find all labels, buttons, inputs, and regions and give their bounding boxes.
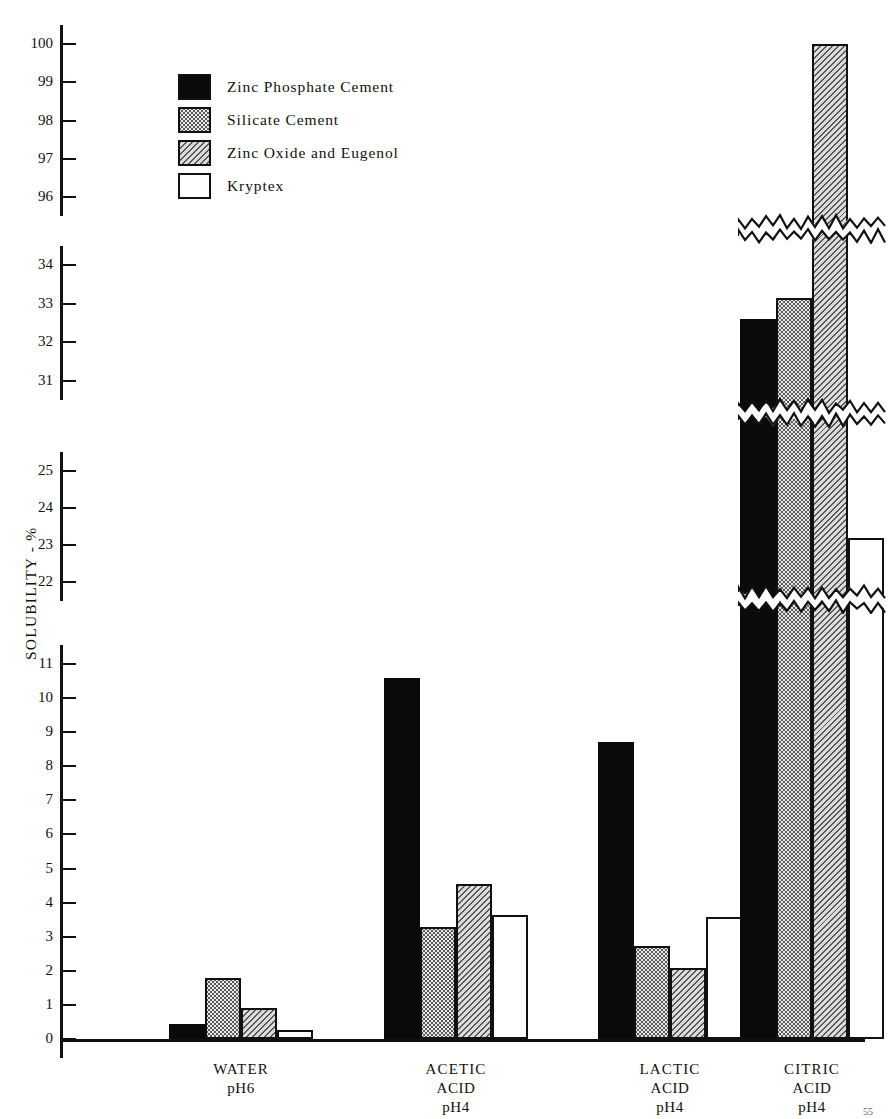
bar-hatch-group3 — [812, 44, 848, 1039]
y-tick — [63, 970, 76, 972]
bar-dots-group3 — [776, 298, 812, 1039]
y-tick-label: 5 — [13, 861, 53, 876]
y-tick-label: 9 — [13, 724, 53, 739]
y-tick-label: 23 — [13, 537, 53, 552]
swatch-silicate-icon — [178, 107, 211, 133]
bar-hatch-group1 — [456, 884, 492, 1039]
bar-open-group0 — [277, 1030, 313, 1039]
y-tick — [63, 544, 76, 546]
legend-item-label: Zinc Phosphate Cement — [227, 78, 394, 96]
bar-solid-group1 — [384, 678, 420, 1039]
bar-open-group3 — [848, 538, 884, 1039]
y-tick-label: 97 — [13, 151, 53, 166]
legend-item: Zinc Phosphate Cement — [178, 70, 399, 103]
x-axis-group-label-citric: CITRICACIDpH4 — [700, 1060, 890, 1117]
y-tick-label: 6 — [13, 826, 53, 841]
bar-solid-group2 — [598, 742, 634, 1039]
y-tick — [63, 1004, 76, 1006]
y-tick-label: 34 — [13, 257, 53, 272]
y-axis-segment-22-25 — [60, 452, 63, 601]
y-tick — [63, 43, 76, 45]
y-tick — [63, 341, 76, 343]
bar-solid-group0 — [169, 1024, 205, 1039]
y-tick-label: 3 — [13, 929, 53, 944]
y-tick-label: 25 — [13, 463, 53, 478]
y-tick — [63, 731, 76, 733]
y-tick-label: 0 — [13, 1031, 53, 1046]
y-tick — [63, 581, 76, 583]
y-axis-segment-31-34 — [60, 246, 63, 400]
bar-solid-group3 — [740, 319, 776, 1039]
y-tick — [63, 380, 76, 382]
x-label-line2: pH6 — [129, 1079, 353, 1098]
legend-item: Kryptex — [178, 169, 399, 202]
y-tick-label: 11 — [13, 656, 53, 671]
x-axis-group-label-acetic: ACETICACIDpH4 — [344, 1060, 568, 1117]
y-tick-label: 8 — [13, 758, 53, 773]
y-tick-label: 31 — [13, 373, 53, 388]
y-tick — [63, 196, 76, 198]
y-tick-label: 7 — [13, 792, 53, 807]
swatch-zinc-phosphate-icon — [178, 74, 211, 100]
legend: Zinc Phosphate CementSilicate CementZinc… — [178, 70, 399, 202]
bar-dots-group1 — [420, 927, 456, 1040]
x-label-line3: pH4 — [700, 1098, 890, 1117]
legend-item: Silicate Cement — [178, 103, 399, 136]
bar-open-group1 — [492, 915, 528, 1039]
y-tick-label: 33 — [13, 296, 53, 311]
x-axis-baseline — [60, 1039, 865, 1042]
corner-note: 55 — [863, 1106, 873, 1117]
legend-item-label: Silicate Cement — [227, 111, 339, 129]
y-tick — [63, 765, 76, 767]
y-tick — [63, 936, 76, 938]
legend-item-label: Zinc Oxide and Eugenol — [227, 144, 399, 162]
bar-open-group2 — [706, 917, 742, 1039]
y-tick — [63, 507, 76, 509]
x-label-line2: ACID — [344, 1079, 568, 1098]
y-tick — [63, 264, 76, 266]
y-axis-segment-0-11 — [60, 645, 63, 1058]
bar-dots-group0 — [205, 978, 241, 1039]
y-tick — [63, 902, 76, 904]
x-label-line1: CITRIC — [700, 1060, 890, 1079]
y-tick — [63, 799, 76, 801]
y-tick-label: 98 — [13, 113, 53, 128]
y-tick-label: 4 — [13, 895, 53, 910]
x-axis-group-label-water: WATERpH6 — [129, 1060, 353, 1098]
y-tick — [63, 697, 76, 699]
y-tick-label: 1 — [13, 997, 53, 1012]
y-tick — [63, 158, 76, 160]
y-tick-label: 100 — [13, 36, 53, 51]
y-tick-label: 99 — [13, 74, 53, 89]
y-tick — [63, 120, 76, 122]
y-tick-label: 32 — [13, 334, 53, 349]
legend-item: Zinc Oxide and Eugenol — [178, 136, 399, 169]
y-tick — [63, 868, 76, 870]
bar-hatch-group2 — [670, 968, 706, 1039]
y-tick-label: 24 — [13, 500, 53, 515]
y-tick-label: 10 — [13, 690, 53, 705]
x-label-line1: ACETIC — [344, 1060, 568, 1079]
y-tick — [63, 81, 76, 83]
x-label-line2: ACID — [700, 1079, 890, 1098]
y-tick — [63, 470, 76, 472]
y-tick-label: 96 — [13, 189, 53, 204]
bar-hatch-group0 — [241, 1008, 277, 1039]
x-label-line1: WATER — [129, 1060, 353, 1079]
swatch-zinc-oxide-eugenol-icon — [178, 140, 211, 166]
legend-item-label: Kryptex — [227, 177, 284, 195]
y-tick-label: 22 — [13, 574, 53, 589]
bar-dots-group2 — [634, 946, 670, 1039]
swatch-kryptex-icon — [178, 173, 211, 199]
y-tick — [63, 303, 76, 305]
x-label-line3: pH4 — [344, 1098, 568, 1117]
y-tick-label: 2 — [13, 963, 53, 978]
y-tick — [63, 833, 76, 835]
y-tick — [63, 663, 76, 665]
